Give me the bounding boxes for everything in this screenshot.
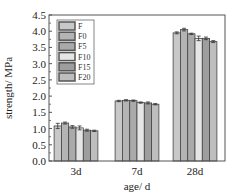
bar-f-3d (54, 126, 61, 161)
y-tick-label: 1.0 (32, 123, 46, 135)
y-tick-label: 3.5 (32, 41, 46, 53)
legend-label-f20: F20 (78, 73, 90, 82)
legend-swatch-f (59, 22, 75, 30)
legend-label-f: F (78, 22, 83, 31)
legend: FF0F5F10F15F20 (57, 20, 94, 84)
bar-f5-7d (130, 101, 137, 161)
legend-label-f5: F5 (78, 42, 86, 51)
bar-f0-28d (180, 30, 187, 161)
bar-f0-3d (61, 123, 68, 161)
bar-f20-7d (152, 104, 159, 161)
bar-f15-28d (202, 38, 209, 161)
bar-f15-3d (83, 130, 90, 161)
x-axis-title: age/ d (124, 180, 151, 192)
bar-f5-28d (188, 34, 195, 161)
legend-label-f0: F0 (78, 32, 86, 41)
y-tick-label: 2.5 (32, 74, 46, 86)
bar-f15-7d (144, 103, 151, 161)
legend-swatch-f15 (59, 63, 75, 71)
bar-f20-3d (91, 131, 98, 161)
legend-swatch-f10 (59, 53, 75, 61)
y-tick-label: 0.0 (32, 155, 46, 167)
x-tick-label: 28d (187, 165, 204, 177)
y-tick-label: 3.0 (32, 58, 46, 70)
legend-swatch-f0 (59, 32, 75, 40)
bar-f20-28d (210, 42, 217, 161)
legend-label-f15: F15 (78, 63, 90, 72)
bar-chart: 0.00.51.01.52.02.53.03.54.04.5 3d7d28d a… (0, 0, 236, 196)
bar-f-28d (173, 33, 180, 161)
x-axis: 3d7d28d (71, 165, 204, 177)
bar-f-7d (115, 101, 122, 161)
y-tick-label: 1.5 (32, 106, 46, 118)
bar-f5-3d (69, 127, 76, 161)
y-tick-label: 2.0 (32, 90, 46, 102)
bar-f10-28d (195, 38, 202, 161)
y-tick-label: 4.0 (32, 25, 46, 37)
x-tick-label: 3d (71, 165, 83, 177)
bar-f10-7d (137, 103, 144, 161)
x-tick-label: 7d (132, 165, 144, 177)
y-tick-label: 0.5 (32, 139, 46, 151)
bar-f0-7d (122, 100, 129, 161)
y-axis-title: strength/ MPa (2, 57, 14, 119)
legend-swatch-f20 (59, 73, 75, 81)
bar-f10-3d (76, 128, 83, 161)
y-tick-label: 4.5 (32, 9, 46, 21)
legend-swatch-f5 (59, 42, 75, 50)
legend-label-f10: F10 (78, 53, 90, 62)
